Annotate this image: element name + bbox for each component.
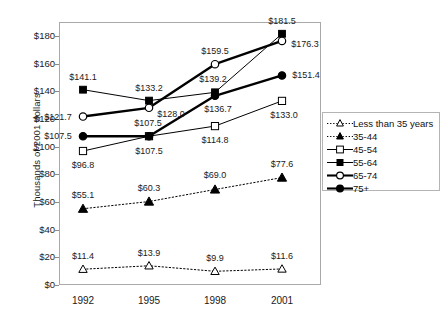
legend-item-55-64[interactable]: 55-64	[327, 156, 436, 169]
y-tick-mark	[54, 174, 59, 175]
y-tick-label: $180	[0, 31, 55, 41]
y-tick-label: $60	[0, 197, 55, 207]
line-chart: Thousands of 2001 dollars $0$20$40$60$80…	[0, 0, 442, 330]
data-point-label: $13.9	[138, 248, 161, 258]
data-point-label: $176.3	[291, 39, 319, 49]
data-point-label: $96.8	[72, 160, 95, 170]
legend-label: 55-64	[353, 157, 377, 168]
data-point-label: $60.3	[138, 183, 161, 193]
data-point-label: $69.0	[204, 170, 227, 180]
filled-triangle-dotted-icon	[327, 130, 353, 143]
legend-item-65-74[interactable]: 65-74	[327, 169, 436, 182]
y-tick-mark	[54, 285, 59, 286]
legend[interactable]: Less than 35 years 35-44 45-54	[322, 112, 440, 191]
y-tick-mark	[54, 202, 59, 203]
data-point-label: $107.5	[135, 146, 163, 156]
y-tick-label: $40	[0, 225, 55, 235]
y-tick-label: $0	[0, 280, 55, 290]
x-tick-label: 2001	[252, 295, 312, 306]
legend-label: 45-54	[353, 144, 377, 155]
data-point-label: $121.7	[44, 112, 72, 122]
data-point-label: $114.8	[202, 135, 229, 145]
y-tick-mark	[54, 36, 59, 37]
plot-area	[59, 22, 321, 285]
data-point-label: $107.5	[44, 131, 72, 141]
y-tick-mark	[54, 64, 59, 65]
legend-label: 65-74	[353, 170, 377, 181]
data-point-label: $77.6	[271, 159, 294, 169]
data-point-label: $151.4	[292, 70, 320, 80]
data-point-label: $55.1	[72, 190, 95, 200]
data-point-label: $159.5	[201, 46, 229, 56]
y-tick-mark	[54, 230, 59, 231]
legend-item-less-than-35-years[interactable]: Less than 35 years	[327, 117, 436, 130]
y-tick-label: $80	[0, 169, 55, 179]
open-triangle-dotted-icon	[327, 117, 353, 130]
page-caption-cutoff	[6, 324, 436, 330]
data-point-label: $181.5	[268, 16, 296, 26]
data-point-label: $11.4	[72, 251, 94, 261]
filled-circle-bold-icon	[327, 182, 353, 195]
legend-label: 75+	[353, 183, 369, 194]
y-tick-label: $100	[0, 142, 55, 152]
x-tick-label: 1992	[53, 295, 113, 306]
y-tick-mark	[54, 147, 59, 148]
data-point-label: $141.1	[69, 72, 97, 82]
y-tick-mark	[54, 91, 59, 92]
filled-square-solid-icon	[327, 156, 353, 169]
x-tick-label: 1995	[119, 295, 179, 306]
data-point-label: $107.5	[134, 118, 162, 128]
legend-item-35-44[interactable]: 35-44	[327, 130, 436, 143]
legend-item-75-plus[interactable]: 75+	[327, 182, 436, 195]
data-point-label: $9.9	[206, 253, 224, 263]
y-tick-label: $140	[0, 86, 55, 96]
data-point-label: $139.2	[199, 74, 227, 84]
data-point-label: $11.6	[271, 251, 293, 261]
legend-item-45-54[interactable]: 45-54	[327, 143, 436, 156]
data-point-label: $133.0	[270, 110, 298, 120]
legend-label: 35-44	[353, 131, 377, 142]
y-tick-label: $20	[0, 252, 55, 262]
data-point-label: $133.2	[135, 83, 163, 93]
y-tick-mark	[54, 257, 59, 258]
open-square-solid-icon	[327, 143, 353, 156]
data-point-label: $136.7	[204, 104, 232, 114]
legend-label: Less than 35 years	[353, 118, 433, 129]
x-tick-label: 1998	[185, 295, 245, 306]
open-circle-bold-icon	[327, 169, 353, 182]
y-tick-label: $160	[0, 59, 55, 69]
